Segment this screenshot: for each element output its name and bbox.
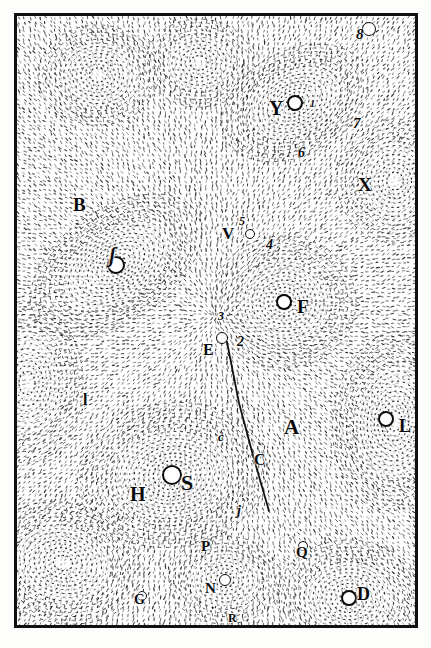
sun-S	[162, 465, 182, 485]
star-Y	[287, 95, 303, 111]
label-L: L	[399, 417, 411, 435]
label-M: M	[225, 624, 236, 625]
numeral-n2: 2	[237, 335, 244, 349]
label-j: j	[237, 504, 241, 518]
star-4	[245, 229, 255, 239]
label-P: P	[201, 539, 210, 554]
star-8	[362, 22, 376, 36]
star-E	[216, 332, 228, 344]
star-D	[341, 590, 357, 606]
star-F	[276, 294, 292, 310]
label-E: E	[203, 342, 214, 358]
star-N	[219, 574, 231, 586]
star-L	[378, 411, 394, 427]
numeral-n8: 8	[356, 27, 364, 42]
numeral-n3: 3	[218, 310, 224, 322]
label-c-lower: c	[218, 430, 224, 443]
label-S: S	[181, 472, 193, 494]
engraving-plate: SHFABDELNPQRMGVXYCcjlʃ 87654321	[0, 0, 431, 648]
label-H: H	[130, 484, 146, 504]
label-Y: Y	[269, 98, 283, 118]
label-G: G	[134, 593, 145, 607]
plate-frame: SHFABDELNPQRMGVXYCcjlʃ 87654321	[14, 13, 418, 628]
label-V: V	[222, 225, 234, 242]
label-longs: ʃ	[109, 245, 116, 265]
label-l-left: l	[83, 392, 87, 408]
vortex-field: SHFABDELNPQRMGVXYCcjlʃ 87654321	[17, 16, 415, 625]
label-A: A	[284, 417, 299, 438]
label-C-upper: C	[254, 452, 266, 468]
label-Q: Q	[296, 545, 308, 560]
numeral-n5: 5	[239, 215, 245, 227]
label-F: F	[297, 297, 309, 316]
stipple-texture	[17, 16, 415, 625]
label-B: B	[73, 195, 86, 214]
numeral-n6: 6	[298, 146, 305, 160]
label-D: D	[357, 585, 370, 603]
label-N: N	[205, 581, 216, 596]
label-X: X	[358, 175, 372, 194]
numeral-n4: 4	[266, 238, 273, 252]
numeral-n7: 7	[353, 116, 361, 131]
numeral-n1: 1	[310, 99, 315, 109]
